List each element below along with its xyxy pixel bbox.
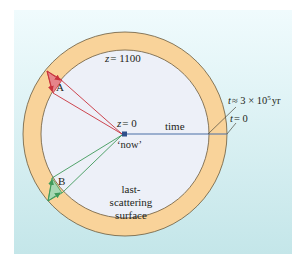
t-zero-label: t= 0 [230, 113, 248, 124]
surface-label-line3: surface [115, 209, 147, 221]
now-marker [122, 132, 127, 137]
surface-label-line1: last- [122, 183, 141, 195]
recombination-time-label: t≈ 3 × 105yr [228, 94, 281, 106]
now-label: ‘now’ [117, 139, 142, 150]
surface-label-line2: scattering [110, 196, 153, 208]
last-scattering-diagram: z= 1100 A B z= 0 ‘now’ time t≈ 3 × 105yr… [0, 0, 306, 263]
z-now-label: z= 0 [116, 117, 137, 129]
point-b-label: B [58, 175, 65, 187]
point-a-label: A [56, 81, 64, 93]
time-label: time [165, 120, 185, 132]
z-outer-label: z= 1100 [104, 52, 141, 64]
